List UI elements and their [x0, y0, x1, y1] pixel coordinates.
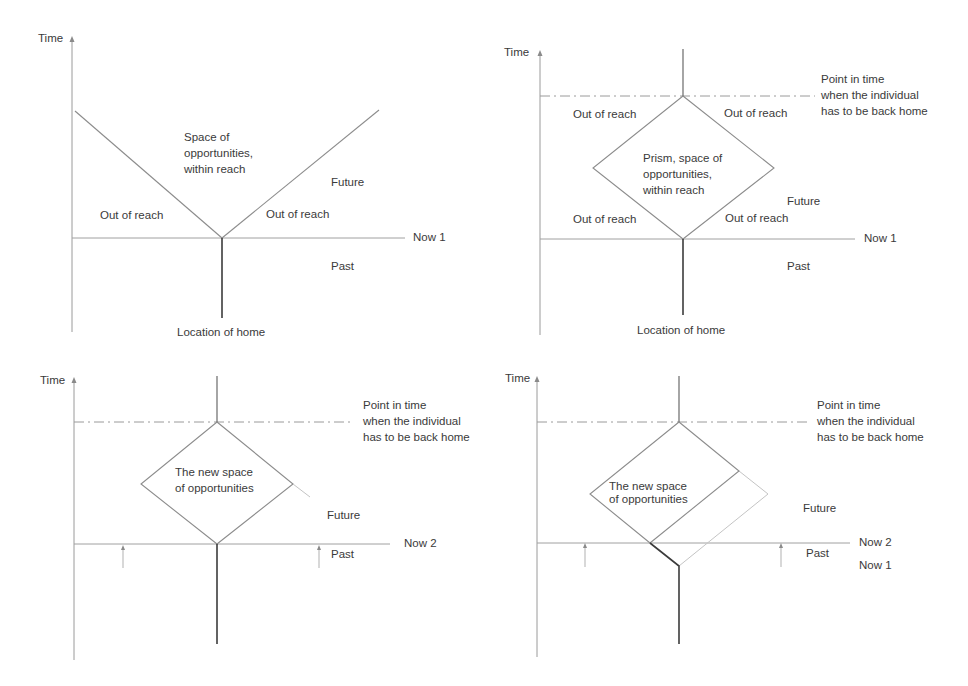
past-label: Past: [806, 547, 830, 559]
past-label: Past: [787, 260, 811, 272]
past-label: Past: [331, 260, 355, 272]
deadline-label: Point in time when the individual has to…: [820, 73, 928, 117]
prism-label: Prism, space of opportunities, within re…: [642, 152, 725, 196]
deadline-label: Point in time when the individual has to…: [362, 399, 470, 443]
future-label: Future: [803, 502, 836, 514]
now2-label: Now 2: [859, 536, 892, 548]
out-of-reach-top-left-label: Out of reach: [573, 108, 636, 120]
panel-4: Time Now 2 Now 1 Point in time when the …: [505, 372, 924, 657]
cone-label: Space of opportunities, within reach: [183, 131, 256, 175]
now-label: Now 2: [404, 537, 437, 549]
prism-label: The new space of opportunities: [175, 466, 256, 494]
out-of-reach-top-right-label: Out of reach: [724, 107, 787, 119]
future-label: Future: [331, 176, 364, 188]
out-of-reach-right-label: Out of reach: [266, 208, 329, 220]
now-label: Now 1: [413, 231, 446, 243]
out-of-reach-bottom-right-label: Out of reach: [725, 212, 788, 224]
time-axis-label: Time: [504, 46, 529, 58]
out-of-reach-bottom-left-label: Out of reach: [573, 213, 636, 225]
out-of-reach-left-label: Out of reach: [100, 209, 163, 221]
now-label: Now 1: [864, 232, 897, 244]
time-axis-label: Time: [505, 372, 530, 384]
deadline-label: Point in time when the individual has to…: [816, 399, 924, 443]
home-trajectory: [650, 543, 679, 644]
shift-arrow-left-icon: [583, 543, 587, 548]
prism-label: The new space of opportunities: [609, 480, 690, 505]
panel-1: Time Now 1 Space of opportunities, withi…: [38, 32, 446, 338]
time-axis-arrow-icon: [70, 36, 75, 42]
past-label: Past: [331, 548, 355, 560]
home-label: Location of home: [637, 324, 725, 336]
time-axis-label: Time: [40, 374, 65, 386]
time-axis-arrow-icon: [72, 377, 77, 383]
panel-3: Time Now 2 Point in time when the indivi…: [40, 374, 470, 660]
time-axis-arrow-icon: [535, 376, 540, 382]
time-axis-arrow-icon: [538, 50, 543, 56]
time-axis-label: Time: [38, 32, 63, 44]
future-label: Future: [787, 195, 820, 207]
now1-label: Now 1: [859, 559, 892, 571]
time-geography-diagram: Time Now 1 Space of opportunities, withi…: [0, 0, 968, 686]
shift-arrow-left-icon: [121, 545, 125, 550]
panel-2: Time Now 1 Point in time when the indivi…: [504, 46, 928, 336]
old-prism-edge: [293, 484, 310, 497]
future-label: Future: [327, 509, 360, 521]
old-prism-outline: [679, 471, 768, 566]
shift-arrow-right-icon: [779, 543, 783, 548]
home-label: Location of home: [177, 326, 265, 338]
shift-arrow-right-icon: [317, 545, 321, 550]
